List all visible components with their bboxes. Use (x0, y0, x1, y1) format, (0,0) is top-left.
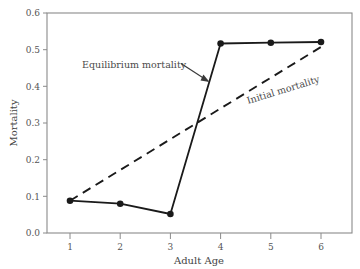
y-tick-label-4: 0.4 (26, 82, 41, 92)
x-tick-label-2: 2 (117, 242, 123, 252)
x-axis-ticks (70, 233, 321, 239)
data-point (117, 200, 124, 207)
x-tick-label-5: 5 (268, 242, 274, 252)
data-point (217, 40, 224, 47)
mortality-line-chart: 0.0 0.1 0.2 0.3 0.4 0.5 0.6 1 2 3 4 5 6 … (0, 0, 360, 269)
chart-figure: 0.0 0.1 0.2 0.3 0.4 0.5 0.6 1 2 3 4 5 6 … (0, 0, 360, 269)
x-tick-label-3: 3 (168, 242, 174, 252)
y-tick-label-5: 0.5 (26, 45, 41, 55)
y-tick-label-0: 0.0 (26, 228, 41, 238)
y-tick-label-2: 0.2 (26, 155, 40, 165)
x-tick-label-4: 4 (218, 242, 224, 252)
y-tick-label-6: 0.6 (26, 8, 41, 18)
data-point (67, 197, 74, 204)
x-axis-title: Adult Age (173, 255, 224, 266)
plot-frame (47, 13, 352, 233)
data-point (318, 39, 325, 46)
equilibrium-mortality-annotation-label: Equilibrium mortality (82, 59, 187, 70)
x-tick-label-6: 6 (318, 242, 324, 252)
data-point (268, 39, 275, 46)
y-tick-label-1: 0.1 (26, 192, 40, 202)
data-point (167, 211, 174, 218)
y-axis-ticks (43, 13, 47, 233)
y-tick-label-3: 0.3 (26, 118, 41, 128)
y-axis-title: Mortality (8, 99, 19, 146)
x-tick-label-1: 1 (67, 242, 73, 252)
